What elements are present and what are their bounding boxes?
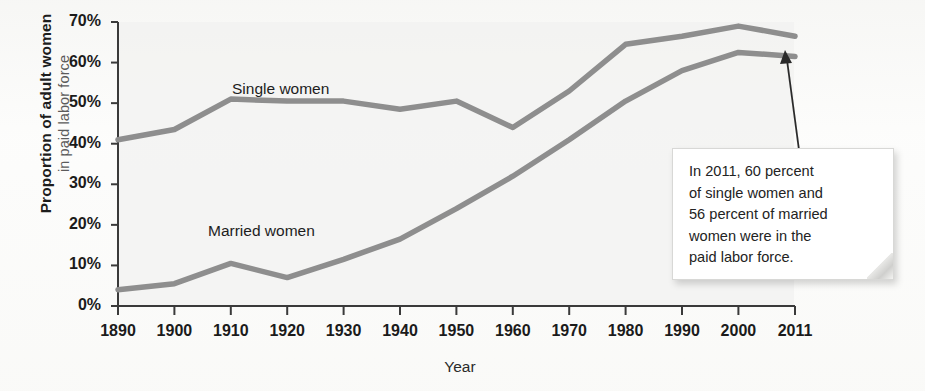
x-tick-label: 1970	[539, 322, 599, 340]
x-axis-ticks	[118, 306, 795, 315]
x-tick-label: 1990	[652, 322, 712, 340]
x-tick-label: 1950	[426, 322, 486, 340]
y-tick-label: 20%	[45, 215, 101, 233]
series-label-single-women: Single women	[232, 80, 329, 98]
y-tick-label: 40%	[45, 134, 101, 152]
x-axis-title: Year	[400, 358, 520, 376]
x-tick-label: 1920	[257, 322, 317, 340]
annotation-callout-box: In 2011, 60 percentof single women and56…	[672, 148, 894, 280]
chart-page: Proportion of adult women in paid labor …	[0, 0, 925, 391]
x-tick-label: 1960	[483, 322, 543, 340]
annotation-line: In 2011, 60 percent	[689, 161, 879, 183]
y-tick-label: 30%	[45, 174, 101, 192]
x-tick-label: 1940	[370, 322, 430, 340]
x-tick-label: 1980	[596, 322, 656, 340]
x-tick-label: 1930	[314, 322, 374, 340]
x-tick-label: 2011	[765, 322, 825, 340]
x-tick-label: 1910	[201, 322, 261, 340]
annotation-line: women were in the	[689, 226, 879, 248]
x-tick-label: 1900	[144, 322, 204, 340]
y-tick-label: 70%	[45, 12, 101, 30]
annotation-line: 56 percent of married	[689, 204, 879, 226]
x-tick-label: 2000	[708, 322, 768, 340]
annotation-line: of single women and	[689, 183, 879, 205]
annotation-callout-text: In 2011, 60 percentof single women and56…	[689, 161, 879, 269]
x-tick-label: 1890	[88, 322, 148, 340]
annotation-line: paid labor force.	[689, 247, 879, 269]
y-tick-label: 50%	[45, 93, 101, 111]
y-tick-label: 0%	[45, 296, 101, 314]
y-tick-label: 10%	[45, 255, 101, 273]
series-line-single-women	[118, 26, 795, 140]
callout-arrow	[780, 50, 799, 150]
series-label-married-women: Married women	[208, 222, 315, 240]
y-tick-label: 60%	[45, 53, 101, 71]
y-axis-ticks	[111, 22, 118, 306]
